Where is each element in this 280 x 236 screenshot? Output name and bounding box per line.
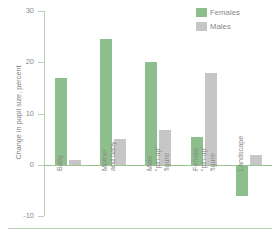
bar-group: Landscape	[227, 11, 272, 216]
x-axis-category-label: Baby	[56, 154, 64, 170]
y-axis-tick-mark	[38, 62, 44, 63]
y-axis-tick-mark	[38, 165, 44, 166]
bar-group: Baby	[45, 11, 90, 216]
bottom-divider-rule	[8, 228, 272, 229]
legend-item-females: Females	[196, 6, 240, 19]
legend-item-males: Males	[196, 20, 240, 33]
legend: Females Males	[196, 6, 240, 34]
y-axis-tick-mark	[38, 216, 44, 217]
bar-chart: Change in pupil size, percent 3020100-10…	[0, 0, 280, 236]
bar-males-4	[250, 155, 262, 165]
legend-label-males: Males	[210, 23, 231, 31]
y-axis-tick-label: 20	[0, 58, 34, 66]
bar-males-0	[69, 160, 81, 165]
legend-swatch-females-icon	[196, 8, 207, 17]
bar-females-0	[55, 78, 67, 165]
bar-group: Female “pin-up” figure	[181, 11, 226, 216]
x-axis-category-label: Male “pin-up” figure	[146, 146, 171, 171]
y-axis-tick-label: 30	[0, 7, 34, 15]
x-axis-category-label: Mother and baby	[101, 141, 118, 171]
plot-area: BabyMother and babyMale “pin-up” figureF…	[45, 11, 272, 216]
y-axis-tick-label: 0	[0, 161, 34, 169]
x-axis-category-label: Landscape	[237, 136, 245, 171]
y-axis-tick-mark	[38, 114, 44, 115]
legend-label-females: Females	[210, 9, 240, 17]
bar-group: Mother and baby	[90, 11, 135, 216]
bar-group: Male “pin-up” figure	[136, 11, 181, 216]
y-axis-tick-label: 10	[0, 110, 34, 118]
y-axis-tick-label: -10	[0, 212, 34, 220]
legend-swatch-males-icon	[196, 22, 207, 31]
y-axis-tick-mark	[38, 11, 44, 12]
x-axis-category-label: Female “pin-up” figure	[192, 146, 217, 171]
